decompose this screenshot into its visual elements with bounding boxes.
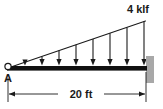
- span-dimension-label: 20 ft: [70, 88, 93, 100]
- beam-member: [7, 66, 147, 71]
- load-intensity-label: 4 klf: [127, 3, 149, 15]
- right-wall-support: [146, 56, 154, 83]
- pin-support-circle: [5, 63, 11, 69]
- beam-diagram-figure: 4 klf A 20 ft: [0, 0, 163, 109]
- beam-diagram-canvas: 4 klf A 20 ft: [0, 0, 163, 109]
